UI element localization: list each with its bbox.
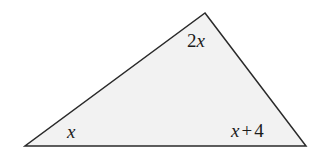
triangle-shape (0, 0, 315, 159)
bottom-left-variable: x (67, 121, 75, 142)
angle-label-bottom-left: x (67, 122, 75, 141)
angle-label-apex: 2x (187, 31, 205, 50)
apex-variable: x (197, 30, 205, 51)
triangle-figure: 2x x x+4 (0, 0, 315, 159)
angle-label-bottom-right: x+4 (231, 121, 264, 140)
apex-coefficient: 2 (187, 30, 197, 51)
bottom-right-constant: 4 (254, 120, 264, 141)
bottom-right-operator: + (239, 120, 254, 141)
